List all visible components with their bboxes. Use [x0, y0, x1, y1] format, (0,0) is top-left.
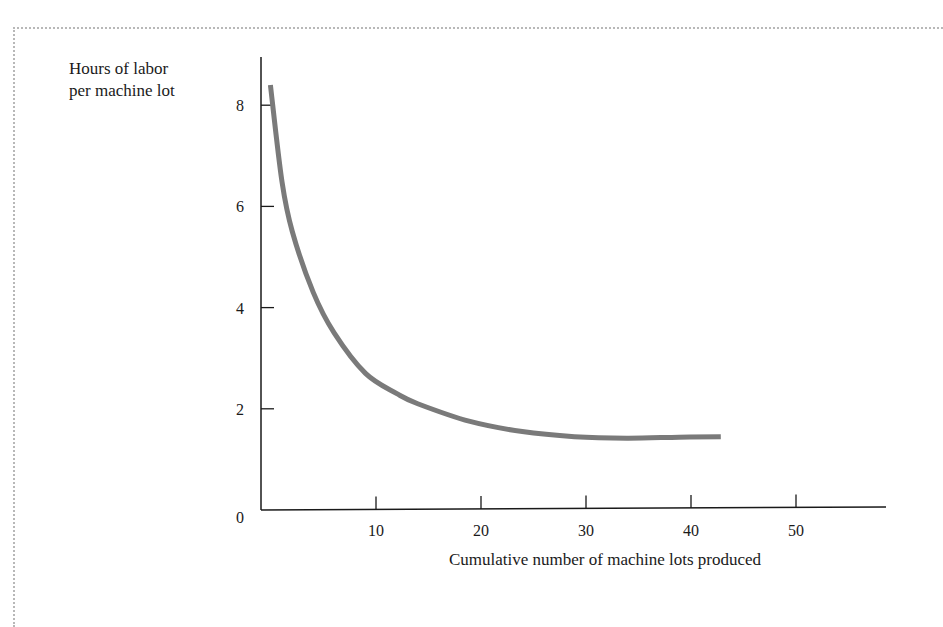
- x-tick-label: 20: [473, 522, 489, 539]
- learning-curve-line: [270, 85, 720, 438]
- y-tick-label: 2: [236, 401, 244, 418]
- y-axis-ticks: 02468: [236, 97, 274, 526]
- y-tick-label: 0: [236, 509, 244, 526]
- x-axis-label: Cumulative number of machine lots produc…: [449, 550, 761, 570]
- y-tick-label: 4: [236, 300, 244, 317]
- x-tick-label: 10: [368, 522, 384, 539]
- x-tick-label: 50: [788, 522, 804, 539]
- y-tick-label: 8: [236, 97, 244, 114]
- x-tick-label: 40: [683, 522, 699, 539]
- x-axis: [261, 507, 886, 510]
- x-axis-ticks: 1020304050: [368, 495, 804, 540]
- y-tick-label: 6: [236, 198, 244, 215]
- x-tick-label: 30: [578, 522, 594, 539]
